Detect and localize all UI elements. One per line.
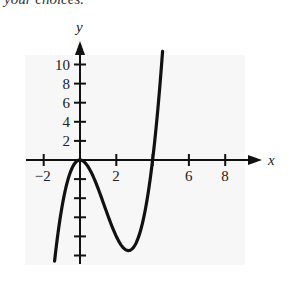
svg-text:−2: −2: [35, 168, 51, 184]
svg-text:8: 8: [221, 168, 229, 184]
y-axis-label: y: [74, 19, 83, 35]
y-axis-arrow-icon: [75, 41, 85, 55]
cubic-function-graph: −2268108642 x y: [0, 0, 296, 286]
svg-text:6: 6: [63, 95, 71, 111]
tick-labels: −2268108642: [35, 57, 229, 185]
svg-text:10: 10: [55, 57, 70, 73]
x-axis-arrow-icon: [248, 155, 262, 165]
x-axis-label: x: [267, 152, 275, 168]
cubic-curve: [55, 51, 163, 261]
svg-text:4: 4: [63, 114, 71, 130]
svg-text:2: 2: [63, 133, 71, 149]
svg-text:6: 6: [185, 168, 193, 184]
svg-text:8: 8: [63, 76, 71, 92]
svg-text:2: 2: [112, 168, 120, 184]
